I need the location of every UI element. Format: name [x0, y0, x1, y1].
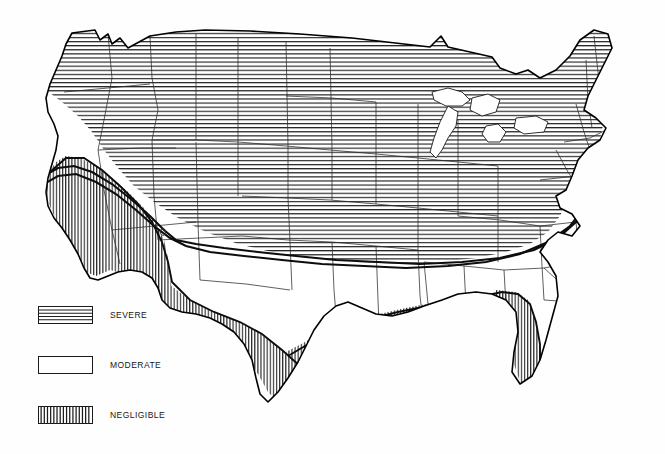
vertical-lines-icon: [39, 407, 92, 423]
map-legend: SEVERE MODERATE: [38, 306, 268, 454]
legend-label-negligible: NEGLIGIBLE: [110, 410, 165, 420]
legend-item-severe: SEVERE: [38, 306, 268, 324]
legend-swatch-negligible: [38, 406, 93, 424]
blank-fill-icon: [39, 357, 92, 373]
horizontal-lines-icon: [39, 307, 92, 323]
legend-swatch-moderate: [38, 356, 93, 374]
legend-swatch-severe: [38, 306, 93, 324]
legend-label-moderate: MODERATE: [110, 360, 161, 370]
legend-label-severe: SEVERE: [110, 310, 147, 320]
legend-item-moderate: MODERATE: [38, 356, 268, 374]
legend-item-negligible: NEGLIGIBLE: [38, 406, 268, 424]
